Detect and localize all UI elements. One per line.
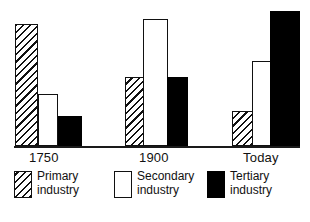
x-label-1750: 1750: [29, 150, 59, 165]
x-label-today: Today: [243, 150, 279, 165]
bar-today-primary: [232, 111, 253, 146]
legend-label-primary-line2: industry: [37, 184, 79, 198]
bar-1750-primary: [15, 24, 38, 146]
legend-label-secondary-line2: industry: [137, 184, 194, 198]
bar-1750-secondary: [38, 94, 58, 146]
chart-legend: Primary industry Secondary industry Tert…: [0, 170, 310, 212]
hatched-swatch-icon: [14, 171, 32, 198]
legend-label-primary: Primary industry: [37, 170, 79, 197]
legend-item-secondary: Secondary industry: [114, 170, 194, 198]
bar-today-tertiary: [270, 11, 300, 146]
x-axis-line: [14, 146, 300, 148]
legend-label-tertiary-line1: Tertiary: [230, 169, 269, 183]
black-swatch-icon: [207, 171, 225, 198]
legend-label-primary-line1: Primary: [37, 169, 78, 183]
legend-label-secondary: Secondary industry: [137, 170, 194, 197]
bar-today-secondary: [252, 61, 272, 146]
legend-label-tertiary: Tertiary industry: [230, 170, 272, 197]
legend-item-tertiary: Tertiary industry: [207, 170, 272, 198]
plot-area: 1750 1900 Today: [0, 0, 310, 150]
bar-chart: 1750 1900 Today Primary industry Seconda…: [0, 0, 310, 222]
bar-1900-secondary: [143, 19, 168, 146]
legend-label-tertiary-line2: industry: [230, 184, 272, 198]
legend-label-secondary-line1: Secondary: [137, 169, 194, 183]
white-swatch-icon: [114, 171, 132, 198]
legend-item-primary: Primary industry: [14, 170, 79, 198]
bar-1900-tertiary: [167, 77, 188, 146]
bar-1750-tertiary: [58, 116, 82, 146]
x-label-1900: 1900: [139, 150, 169, 165]
